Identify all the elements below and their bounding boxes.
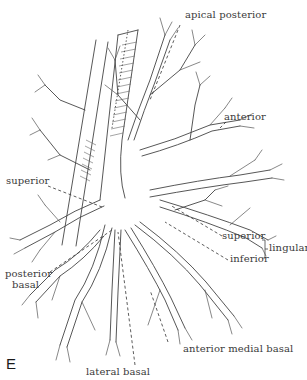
upper-branches xyxy=(105,18,284,256)
label-lingular: lingular xyxy=(269,242,307,253)
label-anterior: anterior xyxy=(224,111,266,122)
main-bronchus xyxy=(62,30,138,246)
left-branches xyxy=(10,75,104,262)
label-posterior-basal-line1: posterior xyxy=(5,268,52,279)
label-posterior-basal-line2: basal xyxy=(12,279,39,290)
label-apical-posterior: apical posterior xyxy=(185,9,266,20)
label-lingular-inferior: inferior xyxy=(230,253,269,264)
label-lateral-basal: lateral basal xyxy=(86,366,150,377)
label-superior: superior xyxy=(6,175,49,186)
bronchial-tree-diagram: apical posterior anterior superior super… xyxy=(0,0,307,380)
panel-letter: E xyxy=(6,355,16,372)
leader-lines xyxy=(48,25,228,365)
label-anterior-medial-basal: anterior medial basal xyxy=(183,343,293,354)
bronchial-tree-illustration xyxy=(0,0,307,380)
label-lingular-superior: superior xyxy=(222,230,265,241)
